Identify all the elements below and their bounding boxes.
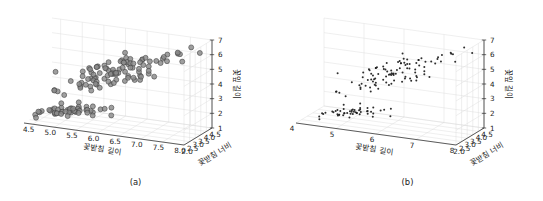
svg-text:7: 7 xyxy=(490,36,495,45)
svg-text:5.5: 5.5 xyxy=(66,131,77,140)
svg-text:3: 3 xyxy=(490,94,495,103)
svg-text:4: 4 xyxy=(490,80,495,89)
svg-text:2: 2 xyxy=(218,109,223,118)
plot-area-b: 456782.02.53.03.54.04.51234567꽃받침 길이꽃받침 … xyxy=(272,0,543,178)
subplot-panel-a: 4.55.05.56.06.57.07.58.02.02.53.03.54.04… xyxy=(0,0,271,201)
svg-text:5: 5 xyxy=(330,130,335,139)
figure-container: 4.55.05.56.06.57.07.58.02.02.53.03.54.04… xyxy=(0,0,543,201)
svg-text:4.5: 4.5 xyxy=(23,125,34,134)
subplot-panel-b: 456782.02.53.03.54.04.51234567꽃받침 길이꽃받침 … xyxy=(272,0,543,201)
svg-text:꽃잎 길이: 꽃잎 길이 xyxy=(232,69,242,99)
svg-text:1: 1 xyxy=(218,124,223,133)
svg-text:7: 7 xyxy=(218,36,223,45)
svg-text:6.0: 6.0 xyxy=(88,134,100,143)
svg-text:6.5: 6.5 xyxy=(109,137,120,146)
svg-text:5: 5 xyxy=(490,65,495,74)
scatter3d-canvas-b: 456782.02.53.03.54.04.51234567꽃받침 길이꽃받침 … xyxy=(272,0,543,178)
svg-text:7: 7 xyxy=(410,141,415,150)
svg-text:5: 5 xyxy=(218,65,223,74)
subplot-caption-a: (a) xyxy=(0,177,271,187)
svg-text:7.0: 7.0 xyxy=(131,140,143,149)
subplot-caption-b: (b) xyxy=(272,177,543,187)
svg-text:꽃잎 길이: 꽃잎 길이 xyxy=(504,69,514,99)
svg-text:4: 4 xyxy=(290,124,295,133)
svg-text:1: 1 xyxy=(490,124,495,133)
svg-text:5.0: 5.0 xyxy=(45,128,57,137)
svg-text:6: 6 xyxy=(490,50,495,59)
svg-text:4: 4 xyxy=(218,80,223,89)
svg-text:6: 6 xyxy=(218,50,223,59)
svg-text:3: 3 xyxy=(218,94,223,103)
svg-text:7.5: 7.5 xyxy=(153,143,164,152)
svg-text:2: 2 xyxy=(490,109,495,118)
svg-text:꽃받침 길이: 꽃받침 길이 xyxy=(355,141,393,156)
scatter3d-canvas-a: 4.55.05.56.06.57.07.58.02.02.53.03.54.04… xyxy=(0,0,271,178)
plot-area-a: 4.55.05.56.06.57.07.58.02.02.53.03.54.04… xyxy=(0,0,271,178)
svg-text:6: 6 xyxy=(370,135,375,144)
